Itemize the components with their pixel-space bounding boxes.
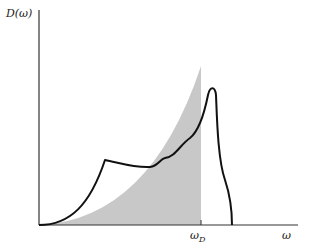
- debye-dos-diagram: D(ω) ωD ω: [0, 0, 312, 250]
- debye-label-main: ω: [190, 229, 199, 242]
- debye-shaded-region: [39, 66, 201, 225]
- plot-canvas: [0, 0, 312, 250]
- debye-label-sub: D: [199, 235, 205, 244]
- y-axis-label: D(ω): [6, 7, 32, 20]
- x-axis-label: ω: [282, 229, 291, 242]
- debye-frequency-label: ωD: [190, 229, 205, 244]
